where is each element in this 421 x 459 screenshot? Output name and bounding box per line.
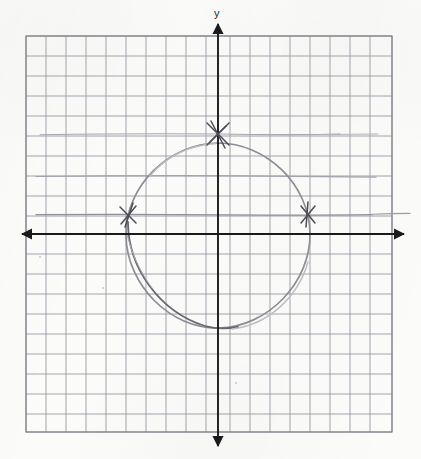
guide-line-top-right: [318, 134, 378, 135]
coordinate-axes: [22, 24, 404, 446]
circle-stroke-lower-left: [128, 222, 238, 328]
guide-lines: [36, 134, 410, 215]
guide-line-top: [40, 134, 340, 135]
graph-paper-figure: y: [0, 0, 421, 459]
guide-line-sides: [36, 214, 372, 215]
y-axis-label: y: [214, 8, 220, 19]
guide-line-sides-right: [372, 213, 410, 214]
plot-canvas: [0, 0, 421, 459]
